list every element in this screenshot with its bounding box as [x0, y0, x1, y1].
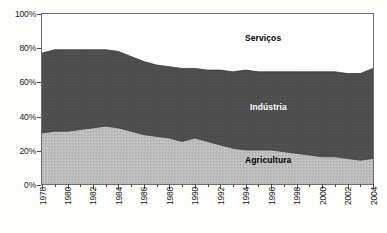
series-label-servicos: Serviços	[245, 33, 281, 43]
series-label-agricultura: Agricultura	[245, 155, 291, 165]
area-series-svg	[42, 14, 373, 184]
x-tick-label: 1988	[165, 187, 175, 205]
y-tick-label: 60%	[20, 77, 36, 87]
y-tick-label: 20%	[20, 146, 36, 156]
x-tick-label: 1992	[216, 187, 226, 205]
x-tick-label: 1980	[63, 187, 73, 205]
x-axis: 1978198019821984198619881990199219941996…	[41, 187, 374, 233]
x-tick-label: 1990	[190, 187, 200, 205]
plot-area: Serviços Indústria Agricultura	[41, 13, 374, 185]
y-tick-label: 80%	[20, 43, 36, 53]
y-tick-label: 0%	[24, 180, 36, 190]
x-tick-label: 2000	[318, 187, 328, 205]
y-tick-mark	[37, 185, 41, 186]
series-label-industria: Indústria	[250, 102, 287, 112]
x-tick-label: 1984	[114, 187, 124, 205]
y-tick-label: 40%	[20, 112, 36, 122]
x-tick-label: 2004	[369, 187, 379, 205]
y-tick-label: 100%	[15, 9, 36, 19]
x-tick-label: 1998	[292, 187, 302, 205]
x-tick-label: 1996	[267, 187, 277, 205]
x-tick-label: 1982	[88, 187, 98, 205]
y-axis: 100% 80% 60% 40% 20% 0%	[0, 0, 38, 233]
x-tick-label: 1978	[38, 187, 48, 205]
x-tick-label: 1986	[139, 187, 149, 205]
stacked-area-chart: 100% 80% 60% 40% 20% 0%	[0, 0, 387, 233]
x-tick-label: 1994	[241, 187, 251, 205]
x-tick-label: 2002	[343, 187, 353, 205]
